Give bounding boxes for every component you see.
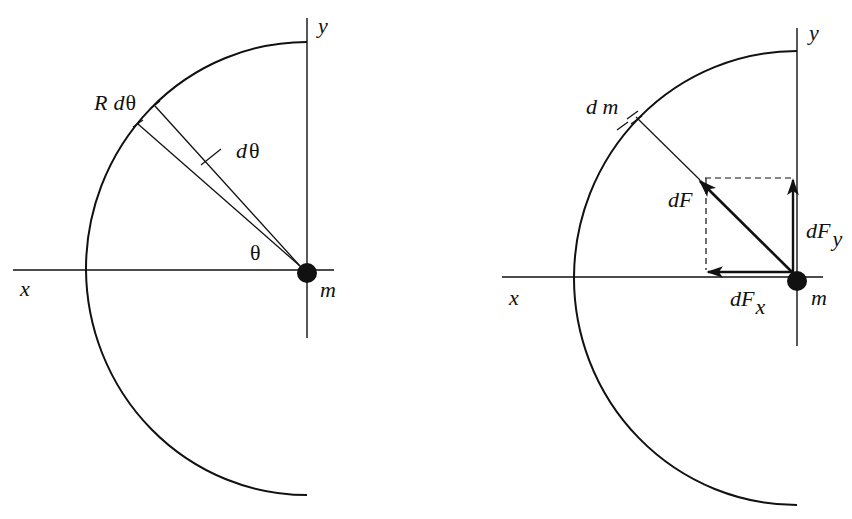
left-mass-label: m [320, 277, 336, 302]
left-x-axis-label: x [19, 276, 30, 301]
left-arc-tick-lower [133, 120, 143, 127]
right-x-axis-label: x [508, 285, 519, 310]
dF-label: dF [668, 187, 693, 212]
right-component-dashed-box [705, 178, 793, 270]
right-y-axis-label: y [807, 20, 819, 45]
figure-canvas: y x Rdθ dθ θ m y x [0, 0, 852, 519]
left-radial-line-lower [138, 124, 300, 266]
right-mass-point [787, 271, 807, 291]
left-theta-label: θ [250, 240, 261, 265]
dF-arrow [700, 181, 795, 275]
dFy-label: dFy [806, 218, 842, 251]
left-arc-tick-upper [150, 101, 160, 109]
dFx-label: dFx [730, 286, 765, 319]
left-panel: y x Rdθ dθ θ m [13, 13, 336, 495]
dm-label: d m [586, 94, 618, 119]
left-radial-line-upper [155, 106, 300, 266]
right-mass-label: m [811, 285, 827, 310]
right-semicircle-arc [574, 51, 797, 505]
left-dtheta-label: dθ [236, 138, 260, 163]
right-panel: y x d m dF dFy dFx m [502, 20, 842, 505]
left-arc-length-label: Rdθ [93, 90, 136, 115]
right-dm-tick-3 [617, 122, 628, 130]
left-mass-point [297, 263, 317, 283]
right-radial-line [636, 117, 700, 180]
left-dtheta-tick [201, 149, 221, 165]
left-y-axis-label: y [316, 13, 328, 38]
